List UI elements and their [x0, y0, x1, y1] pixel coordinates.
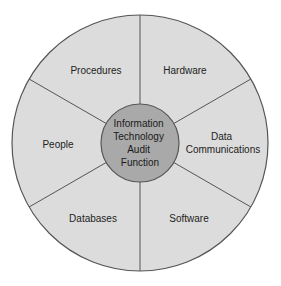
sector-label-people: People: [42, 139, 74, 150]
sector-label-databases: Databases: [69, 213, 117, 224]
sector-label-hardware: Hardware: [163, 65, 207, 76]
sector-label-procedures: Procedures: [70, 65, 121, 76]
center-hub: [101, 104, 179, 182]
it-audit-wheel-diagram: Information Technology Audit Function Pr…: [0, 0, 281, 286]
sector-label-software: Software: [169, 213, 209, 224]
